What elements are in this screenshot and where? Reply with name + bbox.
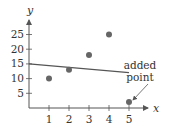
data-point [86, 52, 92, 58]
data-point [46, 76, 52, 82]
y-tick-label: 20 [11, 43, 24, 55]
data-point [66, 67, 72, 73]
y-tick-label: 10 [11, 72, 24, 84]
data-point [106, 32, 112, 38]
x-tick-label: 5 [126, 113, 133, 125]
y-axis-title: y [26, 4, 34, 17]
data-point [126, 99, 132, 105]
scatter-chart: y x 510152025 12345 added point [0, 0, 172, 137]
x-tick-label: 1 [46, 113, 53, 125]
x-tick-label: 2 [66, 113, 73, 125]
y-tick-label: 5 [17, 87, 24, 99]
regression-line [29, 64, 129, 73]
added-point-annotation: added point [124, 59, 157, 100]
data-points [46, 32, 132, 106]
annotation-line-2: point [126, 71, 154, 83]
y-tick-label: 15 [11, 57, 24, 69]
annotation-arrow-icon [133, 84, 148, 100]
y-axis: y [26, 4, 34, 108]
x-axis-title: x [153, 102, 160, 115]
annotation-line-1: added [124, 59, 157, 71]
x-tick-label: 4 [106, 113, 113, 125]
x-tick-label: 3 [86, 113, 93, 125]
y-tick-label: 25 [11, 28, 24, 40]
